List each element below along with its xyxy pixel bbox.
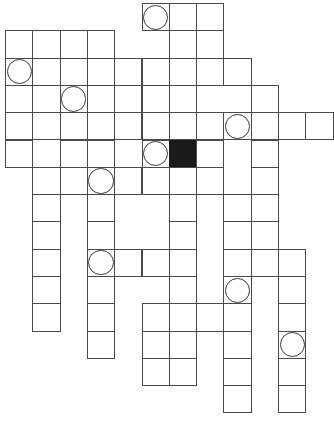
crossword-cell[interactable] bbox=[169, 221, 197, 249]
crossword-cell[interactable] bbox=[114, 58, 142, 86]
crossword-cell[interactable] bbox=[169, 331, 197, 359]
crossword-cell[interactable] bbox=[169, 167, 197, 195]
crossword-circled-cell[interactable] bbox=[87, 167, 115, 195]
crossword-cell[interactable] bbox=[142, 167, 170, 195]
crossword-cell[interactable] bbox=[114, 167, 142, 195]
crossword-cell[interactable] bbox=[114, 85, 142, 113]
crossword-circled-cell[interactable] bbox=[278, 331, 306, 359]
crossword-cell[interactable] bbox=[142, 358, 170, 386]
crossword-cell[interactable] bbox=[32, 249, 60, 277]
crossword-cell[interactable] bbox=[251, 85, 279, 113]
crossword-cell[interactable] bbox=[305, 112, 333, 140]
crossword-cell[interactable] bbox=[251, 140, 279, 168]
crossword-cell[interactable] bbox=[87, 194, 115, 222]
crossword-cell[interactable] bbox=[223, 249, 251, 277]
crossword-circled-cell[interactable] bbox=[5, 58, 33, 86]
crossword-cell[interactable] bbox=[32, 112, 60, 140]
crossword-cell[interactable] bbox=[251, 249, 279, 277]
crossword-cell[interactable] bbox=[169, 85, 197, 113]
crossword-cell[interactable] bbox=[142, 58, 170, 86]
crossword-circled-cell[interactable] bbox=[87, 249, 115, 277]
crossword-circled-cell[interactable] bbox=[223, 276, 251, 304]
crossword-cell[interactable] bbox=[169, 358, 197, 386]
crossword-cell[interactable] bbox=[278, 385, 306, 413]
crossword-cell[interactable] bbox=[87, 30, 115, 58]
crossword-cell[interactable] bbox=[32, 276, 60, 304]
crossword-cell[interactable] bbox=[196, 30, 224, 58]
crossword-cell[interactable] bbox=[169, 30, 197, 58]
crossword-cell[interactable] bbox=[142, 303, 170, 331]
crossword-cell[interactable] bbox=[5, 85, 33, 113]
crossword-cell[interactable] bbox=[60, 140, 88, 168]
crossword-cell[interactable] bbox=[32, 58, 60, 86]
crossword-cell[interactable] bbox=[32, 303, 60, 331]
crossword-cell[interactable] bbox=[114, 249, 142, 277]
crossword-cell[interactable] bbox=[5, 30, 33, 58]
crossword-blocked-cell bbox=[169, 140, 197, 168]
crossword-cell[interactable] bbox=[60, 167, 88, 195]
crossword-cell[interactable] bbox=[223, 358, 251, 386]
crossword-cell[interactable] bbox=[32, 85, 60, 113]
crossword-cell[interactable] bbox=[278, 249, 306, 277]
crossword-cell[interactable] bbox=[142, 112, 170, 140]
crossword-cell[interactable] bbox=[251, 194, 279, 222]
crossword-circled-cell[interactable] bbox=[223, 112, 251, 140]
crossword-cell[interactable] bbox=[169, 112, 197, 140]
crossword-cell[interactable] bbox=[87, 221, 115, 249]
crossword-cell[interactable] bbox=[251, 167, 279, 195]
crossword-cell[interactable] bbox=[196, 167, 224, 195]
crossword-cell[interactable] bbox=[169, 3, 197, 31]
crossword-cell[interactable] bbox=[278, 358, 306, 386]
crossword-cell[interactable] bbox=[223, 194, 251, 222]
crossword-cell[interactable] bbox=[169, 58, 197, 86]
crossword-circled-cell[interactable] bbox=[142, 140, 170, 168]
crossword-cell[interactable] bbox=[5, 112, 33, 140]
crossword-cell[interactable] bbox=[32, 194, 60, 222]
crossword-cell[interactable] bbox=[251, 221, 279, 249]
crossword-cell[interactable] bbox=[223, 303, 251, 331]
crossword-cell[interactable] bbox=[223, 58, 251, 86]
crossword-cell[interactable] bbox=[196, 3, 224, 31]
crossword-cell[interactable] bbox=[87, 140, 115, 168]
crossword-cell[interactable] bbox=[196, 58, 224, 86]
crossword-cell[interactable] bbox=[196, 303, 224, 331]
crossword-cell[interactable] bbox=[60, 30, 88, 58]
crossword-cell[interactable] bbox=[87, 58, 115, 86]
crossword-cell[interactable] bbox=[196, 140, 224, 168]
crossword-cell[interactable] bbox=[278, 276, 306, 304]
crossword-circled-cell[interactable] bbox=[60, 85, 88, 113]
crossword-circled-cell[interactable] bbox=[142, 3, 170, 31]
crossword-cell[interactable] bbox=[87, 331, 115, 359]
crossword-cell[interactable] bbox=[278, 112, 306, 140]
crossword-cell[interactable] bbox=[5, 140, 33, 168]
crossword-cell[interactable] bbox=[114, 112, 142, 140]
crossword-cell[interactable] bbox=[142, 249, 170, 277]
crossword-cell[interactable] bbox=[223, 331, 251, 359]
crossword-cell[interactable] bbox=[142, 85, 170, 113]
crossword-cell[interactable] bbox=[169, 303, 197, 331]
crossword-cell[interactable] bbox=[60, 112, 88, 140]
crossword-cell[interactable] bbox=[169, 276, 197, 304]
crossword-cell[interactable] bbox=[196, 112, 224, 140]
crossword-cell[interactable] bbox=[142, 331, 170, 359]
crossword-cell[interactable] bbox=[169, 249, 197, 277]
crossword-cell[interactable] bbox=[87, 85, 115, 113]
crossword-cell[interactable] bbox=[87, 276, 115, 304]
crossword-cell[interactable] bbox=[223, 385, 251, 413]
crossword-cell[interactable] bbox=[223, 221, 251, 249]
crossword-cell[interactable] bbox=[169, 194, 197, 222]
crossword-cell[interactable] bbox=[32, 30, 60, 58]
crossword-cell[interactable] bbox=[87, 303, 115, 331]
crossword-cell[interactable] bbox=[32, 221, 60, 249]
crossword-cell[interactable] bbox=[32, 167, 60, 195]
crossword-cell[interactable] bbox=[251, 112, 279, 140]
crossword-cell[interactable] bbox=[278, 303, 306, 331]
crossword-cell[interactable] bbox=[87, 112, 115, 140]
